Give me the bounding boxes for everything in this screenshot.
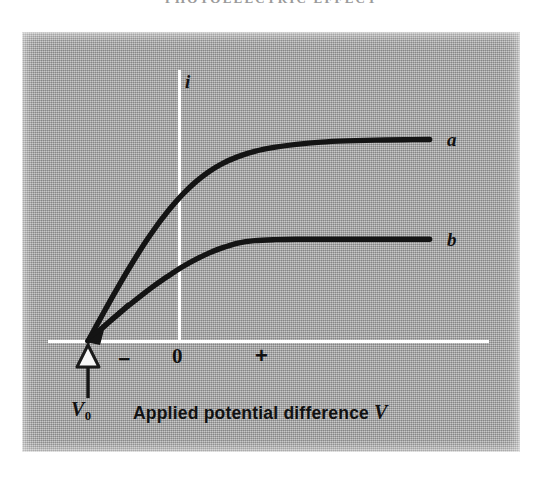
stopping-potential-label: V0 <box>71 399 91 422</box>
x-axis-tick-zero: 0 <box>172 346 183 367</box>
curve-a-label: a <box>447 130 457 149</box>
x-axis-caption: Applied potential differenceV <box>133 402 388 423</box>
x-axis-caption-variable: V <box>374 401 388 423</box>
stopping-potential-triangle-marker <box>77 345 99 367</box>
stopping-potential-subscript: 0 <box>85 409 91 423</box>
x-axis-caption-text: Applied potential difference <box>133 403 369 423</box>
x-axis-tick-minus: − <box>118 348 130 369</box>
y-axis-label: i <box>185 72 190 91</box>
curve-b-label: b <box>447 230 457 249</box>
x-axis-tick-plus: + <box>255 345 268 367</box>
stopping-potential-symbol: V <box>71 398 84 420</box>
